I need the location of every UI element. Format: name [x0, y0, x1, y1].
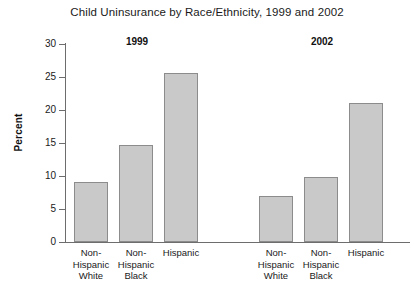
y-axis-title: Percent [13, 103, 24, 163]
y-tick-mark [59, 242, 66, 243]
bar-1999-non-hispanic-white [74, 182, 108, 242]
bar-2002-non-hispanic-white [259, 196, 293, 242]
bar-1999-non-hispanic-black [119, 145, 153, 242]
y-tick-label: 30 [30, 39, 56, 49]
bar-2002-hispanic [349, 103, 383, 242]
category-label-line: Hispanic [100, 259, 172, 271]
bar-1999-hispanic [164, 73, 198, 242]
group-header-1999: 1999 [107, 36, 167, 47]
y-tick-mark [59, 176, 66, 177]
y-tick-label: 20 [30, 105, 56, 115]
y-tick-mark [59, 44, 66, 45]
category-label-line: Hispanic [330, 247, 402, 259]
y-tick-label: 0 [30, 237, 56, 247]
y-tick-mark [59, 110, 66, 111]
y-tick-mark [59, 77, 66, 78]
y-tick-mark [59, 143, 66, 144]
x-axis-line [65, 242, 410, 243]
y-tick-mark [59, 209, 66, 210]
category-label-line: Black [100, 270, 172, 282]
y-tick-label: 10 [30, 171, 56, 181]
y-tick-label: 25 [30, 72, 56, 82]
category-label-line: Hispanic [145, 247, 217, 259]
y-tick-label: 15 [30, 138, 56, 148]
bar-2002-non-hispanic-black [304, 177, 338, 242]
chart-title: Child Uninsurance by Race/Ethnicity, 199… [0, 6, 414, 18]
category-label-hispanic: Hispanic [145, 247, 217, 259]
category-label-hispanic: Hispanic [330, 247, 402, 259]
category-label-line: Black [285, 270, 357, 282]
group-header-2002: 2002 [292, 36, 352, 47]
bar-chart: Child Uninsurance by Race/Ethnicity, 199… [0, 0, 414, 290]
category-label-line: Hispanic [285, 259, 357, 271]
y-tick-label: 5 [30, 204, 56, 214]
